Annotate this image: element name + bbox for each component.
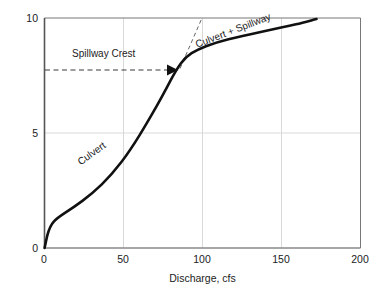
y-tick-label-10: 10 [18,13,38,24]
annotation-spillway-crest: Spillway Crest [72,49,135,59]
x-tick-label-100: 100 [193,254,211,265]
x-tick-label-150: 150 [272,254,290,265]
y-tick-label-5: 5 [22,128,38,139]
spillway-crest-arrow [45,65,178,76]
x-tick-label-50: 50 [117,254,129,265]
x-tick-label-200: 200 [351,254,369,265]
chart-figure: 0 50 100 150 200 0 5 10 Discharge, cfs P… [0,0,381,296]
x-tick-label-0: 0 [41,254,47,265]
plot-canvas [0,0,381,296]
y-tick-label-0: 0 [22,243,38,254]
x-axis-label: Discharge, cfs [44,272,361,284]
